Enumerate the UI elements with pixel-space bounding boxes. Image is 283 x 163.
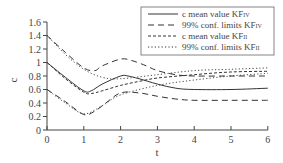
x-tick-label: 4 (192, 134, 197, 145)
y-tick-label: 0 (36, 125, 41, 136)
y-axis-title: c (7, 77, 19, 82)
y-tick-label: 1 (36, 57, 41, 68)
legend-label: c mean value KFII (182, 31, 247, 41)
legend: c mean value KFIV99% conf. limits KFIVc … (141, 7, 274, 55)
x-tick-label: 0 (45, 134, 50, 145)
x-tick-label: 1 (81, 134, 86, 145)
x-tick-label: 5 (229, 134, 234, 145)
y-tick-label: 1.4 (29, 30, 42, 41)
y-tick-label: 0.2 (29, 111, 42, 122)
y-tick-label: 1.6 (29, 17, 42, 28)
x-tick-label: 2 (118, 134, 123, 145)
x-tick-label: 6 (265, 134, 270, 145)
series-line-5 (47, 73, 268, 114)
y-tick-label: 0.8 (29, 71, 42, 82)
series-line-0 (47, 63, 268, 93)
legend-label: 99% conf. limits KFII (182, 42, 260, 52)
y-tick-label: 0.6 (29, 84, 42, 95)
line-chart: 012345600.20.40.60.811.21.41.6 c t c mea… (0, 0, 283, 163)
y-tick-label: 0.4 (29, 98, 42, 109)
x-axis-title: t (155, 146, 158, 158)
legend-label: 99% conf. limits KFIV (182, 20, 262, 30)
y-tick-label: 1.2 (29, 44, 42, 55)
x-tick-label: 3 (155, 134, 160, 145)
legend-label: c mean value KFIV (182, 9, 250, 19)
series-line-2 (47, 90, 268, 115)
